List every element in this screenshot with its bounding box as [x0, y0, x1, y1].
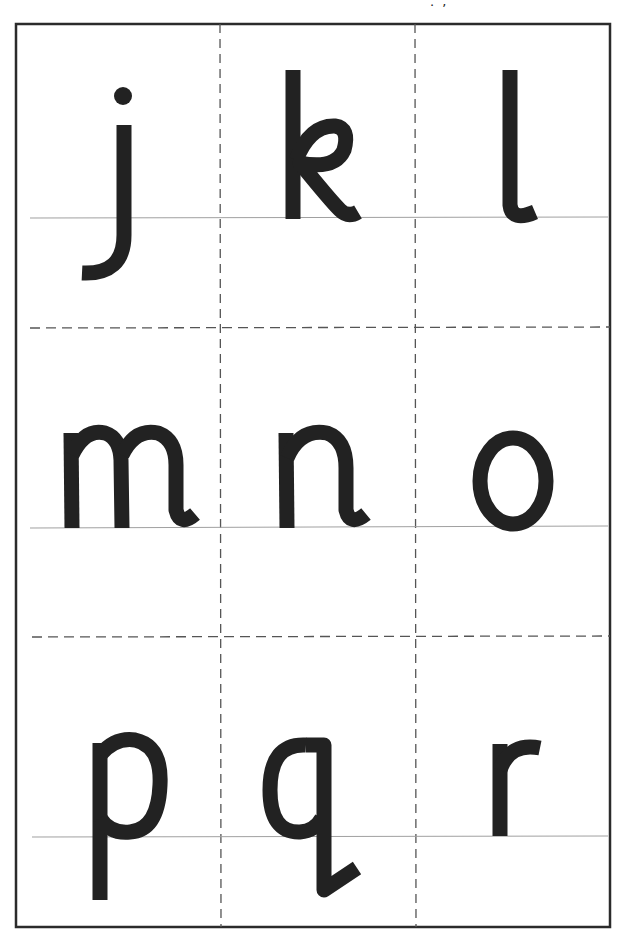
letter-p-glyph	[100, 740, 160, 900]
letter-n-glyph	[286, 432, 366, 528]
cut-line-horizontal-2	[32, 636, 610, 637]
cut-line-vertical-1	[220, 24, 221, 927]
letter-r-glyph	[500, 744, 540, 836]
cut-line-horizontal-1	[30, 327, 610, 328]
letter-k-glyph	[293, 70, 358, 219]
cut-line-vertical-2	[415, 24, 416, 927]
clipped-header-text: . ,	[430, 0, 448, 9]
letter-o-glyph	[480, 438, 546, 524]
letter-q-glyph	[270, 745, 357, 890]
letter-j-glyph	[82, 87, 132, 273]
flashcard-sheet: . ,	[0, 0, 628, 933]
letter-grid	[0, 0, 628, 933]
letter-m-glyph	[71, 432, 195, 528]
letter-l-glyph	[510, 70, 535, 216]
